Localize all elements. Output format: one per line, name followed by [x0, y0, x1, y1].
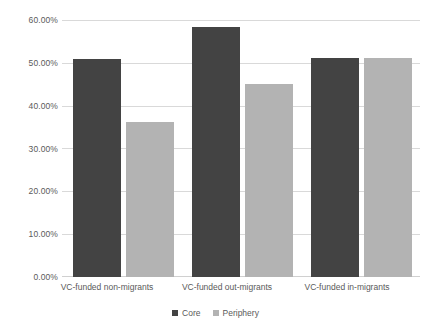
legend-item-core[interactable]: Core	[172, 308, 200, 318]
y-axis: 60.00% 50.00% 40.00% 30.00% 20.00% 10.00…	[0, 0, 58, 327]
gridline-60	[62, 20, 420, 21]
y-tick-label-10: 10.00%	[2, 229, 58, 239]
y-tick-label-20: 20.00%	[2, 186, 58, 196]
y-tick-label-30: 30.00%	[2, 144, 58, 154]
legend-swatch-periphery-icon	[213, 310, 219, 316]
chart-legend: Core Periphery	[0, 305, 431, 321]
bar-periphery-in-migrants	[364, 58, 412, 277]
y-tick-label-0: 0.00%	[2, 272, 58, 282]
y-tick-label-40: 40.00%	[2, 101, 58, 111]
bar-chart: 60.00% 50.00% 40.00% 30.00% 20.00% 10.00…	[0, 0, 431, 327]
y-tick-label-60: 60.00%	[2, 15, 58, 25]
bar-core-non-migrants	[73, 59, 121, 277]
x-tick-label-out-migrants: VC-funded out-migrants	[172, 281, 282, 293]
y-tick-label-50: 50.00%	[2, 58, 58, 68]
x-axis: VC-funded non-migrants VC-funded out-mig…	[62, 281, 420, 297]
plot-area	[62, 20, 420, 277]
x-tick-label-in-migrants: VC-funded in-migrants	[292, 281, 402, 293]
legend-item-periphery[interactable]: Periphery	[213, 308, 259, 318]
bar-core-out-migrants	[192, 27, 240, 277]
legend-label-core: Core	[182, 308, 200, 318]
legend-swatch-core-icon	[172, 310, 178, 316]
bar-core-in-migrants	[311, 58, 359, 277]
bar-periphery-non-migrants	[126, 122, 174, 277]
legend-label-periphery: Periphery	[223, 308, 259, 318]
bar-periphery-out-migrants	[245, 84, 293, 277]
x-tick-label-non-migrants: VC-funded non-migrants	[52, 281, 162, 293]
